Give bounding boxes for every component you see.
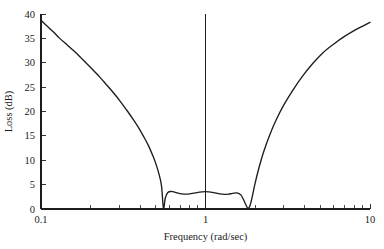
y-axis-tick-labels: 0510152025303540 [25,9,36,215]
x-tick-label: 1 [203,214,208,225]
y-axis-ticks [41,14,46,209]
x-axis-title: Frequency (rad/sec) [164,231,248,243]
x-tick-label: 10 [365,214,376,225]
y-axis-title: Loss (dB) [3,90,15,132]
y-tick-label: 35 [25,33,36,44]
x-axis-minor-ticks [91,205,363,209]
y-tick-label: 10 [25,155,36,166]
x-axis-tick-labels: 0.1110 [34,214,375,225]
x-tick-label: 0.1 [34,214,47,225]
y-tick-label: 20 [25,106,36,117]
y-tick-label: 25 [25,82,36,93]
y-tick-label: 5 [30,179,35,190]
y-tick-label: 40 [25,9,36,20]
chart-canvas: 0510152025303540 0.1110 Frequency (rad/s… [0,0,384,249]
loss-frequency-chart: 0510152025303540 0.1110 Frequency (rad/s… [0,0,384,249]
y-tick-label: 15 [25,130,36,141]
y-tick-label: 30 [25,57,36,68]
